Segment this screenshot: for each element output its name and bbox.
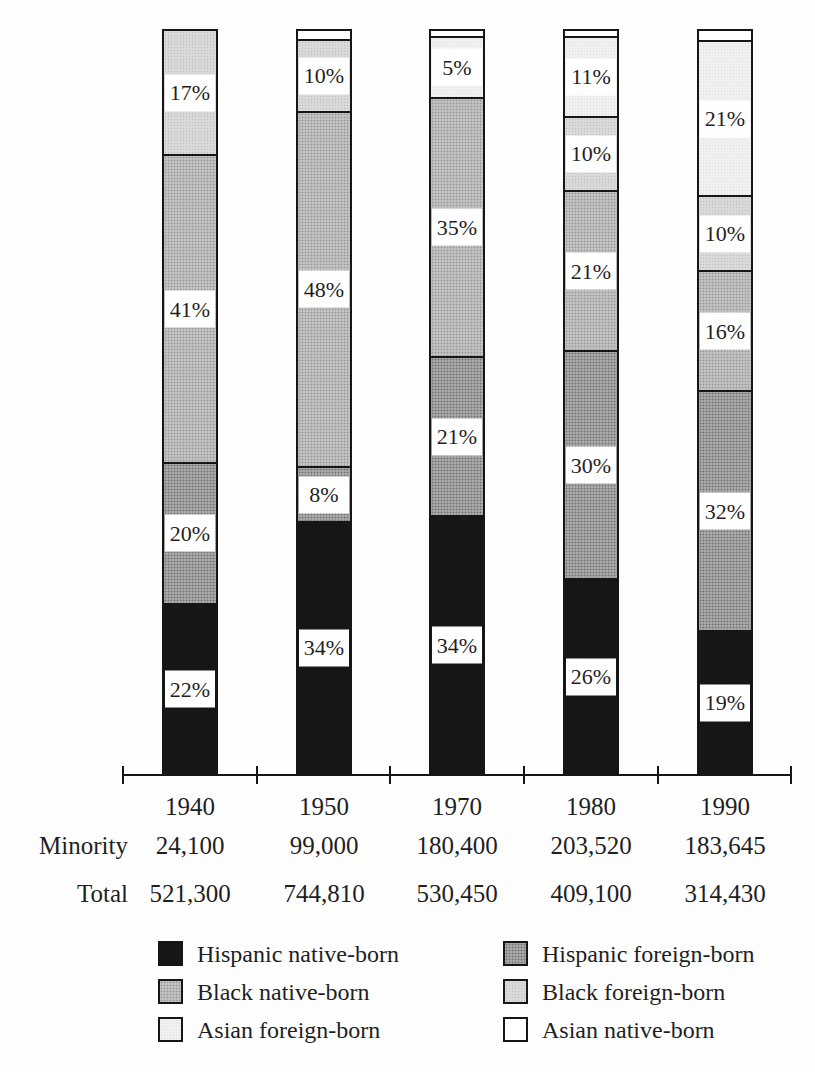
minority-value-1990: 183,645 [684,832,765,860]
legend-label-black_native: Black native-born [197,980,370,1004]
percent-label: 21% [432,418,482,455]
legend-label-black_foreign: Black foreign-born [542,980,725,1004]
segment-hispanic_native: 19% [699,632,751,773]
segment-hispanic_foreign: 30% [565,352,617,580]
minority-value-1940: 24,100 [156,832,225,860]
percent-label: 21% [566,253,616,290]
percent-label: 8% [299,476,349,513]
percent-label: 11% [566,58,616,95]
segment-asian_foreign: 5% [431,38,483,99]
legend-label-asian_native: Asian native-born [542,1018,715,1042]
year-label-1970: 1970 [432,793,482,821]
percent-label: 41% [165,291,215,328]
total-value-1950: 744,810 [283,880,364,908]
segment-black_native: 48% [298,113,350,468]
x-axis-line [123,774,792,776]
segment-black_native: 41% [164,156,216,463]
segment-black_foreign: 17% [164,31,216,156]
minority-value-1970: 180,400 [416,832,497,860]
segment-asian_native [431,31,483,38]
hispanic_foreign-swatch [503,941,528,966]
asian_foreign-swatch [158,1017,183,1042]
percent-label: 19% [700,684,750,721]
legend-item-black_foreign: Black foreign-born [503,979,755,1004]
legend-item-asian_foreign: Asian foreign-born [158,1017,399,1042]
segment-asian_native [565,31,617,38]
hispanic_native-swatch [158,941,183,966]
segment-black_foreign: 10% [298,41,350,113]
segment-black_native: 35% [431,99,483,359]
minority-row-label: Minority [0,832,128,860]
segment-asian_foreign: 11% [565,38,617,118]
minority-value-1950: 99,000 [290,832,359,860]
legend-item-hispanic_foreign: Hispanic foreign-born [503,941,755,966]
x-axis-tick-0 [122,766,124,784]
year-label-1940: 1940 [165,793,215,821]
percent-label: 21% [700,100,750,137]
segment-asian_native [699,31,751,42]
bar-1940: 22%20%41%17% [162,29,218,775]
percent-label: 22% [165,671,215,708]
legend-label-hispanic_foreign: Hispanic foreign-born [542,942,755,966]
percent-label: 34% [299,629,349,666]
asian_native-swatch [503,1017,528,1042]
segment-hispanic_foreign: 8% [298,468,350,523]
percent-label: 16% [700,313,750,350]
bar-1990: 19%32%16%10%21% [697,29,753,775]
percent-label: 26% [566,658,616,695]
stacked-bar-chart-figure: 22%20%41%17%34%8%48%10%34%21%35%5%26%30%… [0,0,815,1072]
segment-hispanic_native: 22% [164,605,216,773]
year-label-1980: 1980 [566,793,616,821]
percent-label: 35% [432,209,482,246]
year-label-1950: 1950 [299,793,349,821]
black_foreign-swatch [503,979,528,1004]
percent-label: 20% [165,515,215,552]
segment-hispanic_native: 34% [431,517,483,773]
segment-hispanic_foreign: 20% [164,464,216,606]
total-value-1970: 530,450 [416,880,497,908]
percent-label: 48% [299,271,349,308]
percent-label: 10% [566,135,616,172]
segment-hispanic_native: 26% [565,580,617,773]
percent-label: 5% [432,49,482,86]
segment-black_foreign: 10% [699,197,751,272]
x-axis-tick-3 [523,766,525,784]
legend-item-black_native: Black native-born [158,979,399,1004]
total-value-1980: 409,100 [550,880,631,908]
segment-black_native: 21% [565,192,617,352]
segment-hispanic_native: 34% [298,523,350,773]
bar-1950: 34%8%48%10% [296,29,352,775]
legend-label-asian_foreign: Asian foreign-born [197,1018,380,1042]
percent-label: 34% [432,627,482,664]
minority-value-1980: 203,520 [550,832,631,860]
segment-hispanic_foreign: 32% [699,392,751,632]
percent-label: 32% [700,493,750,530]
legend-column-0: Hispanic native-bornBlack native-bornAsi… [158,941,399,1055]
legend-column-1: Hispanic foreign-bornBlack foreign-bornA… [503,941,755,1055]
bar-1980: 26%30%21%10%11% [563,29,619,775]
total-row-label: Total [0,880,128,908]
segment-black_native: 16% [699,272,751,392]
bar-1970: 34%21%35%5% [429,29,485,775]
black_native-swatch [158,979,183,1004]
total-value-1990: 314,430 [684,880,765,908]
year-label-1990: 1990 [700,793,750,821]
x-axis-tick-4 [657,766,659,784]
percent-label: 17% [165,74,215,111]
legend-item-hispanic_native: Hispanic native-born [158,941,399,966]
x-axis-tick-2 [389,766,391,784]
x-axis-tick-5 [790,766,792,784]
segment-asian_foreign: 21% [699,42,751,197]
segment-asian_native [298,31,350,41]
percent-label: 10% [299,57,349,94]
segment-hispanic_foreign: 21% [431,358,483,517]
legend-item-asian_native: Asian native-born [503,1017,755,1042]
percent-label: 30% [566,447,616,484]
total-value-1940: 521,300 [149,880,230,908]
legend-label-hispanic_native: Hispanic native-born [197,942,399,966]
segment-black_foreign: 10% [565,118,617,192]
x-axis-tick-1 [256,766,258,784]
percent-label: 10% [700,215,750,252]
